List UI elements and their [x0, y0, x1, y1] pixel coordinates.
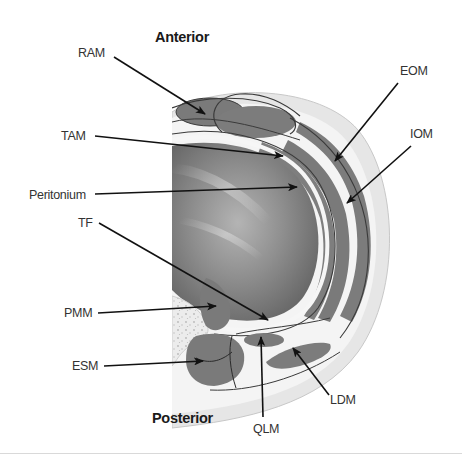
- label-tf: TF: [78, 216, 93, 230]
- cross-section-figure: [0, 0, 462, 463]
- orientation-anterior: Anterior: [155, 29, 209, 45]
- qlm-muscle: [244, 333, 284, 347]
- label-peritonium: Peritonium: [29, 188, 86, 202]
- label-esm: ESM: [72, 359, 98, 373]
- bottom-divider: [0, 453, 462, 454]
- label-eom: EOM: [400, 64, 428, 78]
- section-body: [172, 93, 390, 428]
- label-ldm: LDM: [330, 393, 356, 407]
- abdominal-wall-diagram: Anterior Posterior RAM TAM Peritonium TF…: [0, 0, 462, 463]
- label-iom: IOM: [410, 127, 433, 141]
- label-pmm: PMM: [64, 306, 92, 320]
- label-qlm: QLM: [253, 422, 279, 436]
- orientation-posterior: Posterior: [152, 410, 213, 426]
- arrow-ram: [114, 57, 205, 114]
- label-tam: TAM: [61, 129, 86, 143]
- label-ram: RAM: [78, 46, 105, 60]
